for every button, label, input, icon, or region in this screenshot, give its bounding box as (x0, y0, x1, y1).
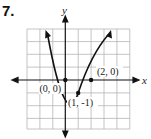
label-x-intercept: (2, 0) (97, 66, 119, 78)
x-axis-right-arrow-icon (133, 78, 139, 83)
y-axis-down-arrow-icon (63, 131, 68, 137)
point-vertex (76, 91, 80, 95)
point-origin (63, 78, 67, 82)
point-x-intercept (89, 78, 93, 82)
curve-left-arrow-icon (45, 30, 51, 39)
grid (27, 29, 130, 129)
y-axis-up-arrow-icon (63, 16, 68, 22)
x-axis-left-arrow-icon (12, 78, 18, 83)
y-axis-label: y (61, 4, 67, 16)
x-axis-label: x (141, 74, 147, 86)
parabola-graph: x y (0, 0) (1, -1) (2, 0) (0, 0, 151, 139)
label-origin: (0, 0) (40, 83, 62, 95)
label-vertex: (1, -1) (68, 97, 93, 109)
curve-arrows (45, 30, 112, 39)
